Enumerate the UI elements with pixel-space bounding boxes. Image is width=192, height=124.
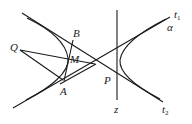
label-t1-sub: 1 — [177, 14, 181, 22]
label-t2-sub: 2 — [165, 109, 169, 117]
label-t2: t2 — [162, 104, 169, 117]
label-M: M — [70, 54, 79, 65]
label-alpha: α — [167, 22, 173, 33]
label-Q: Q — [10, 42, 18, 53]
label-z: z — [114, 104, 118, 115]
label-B: B — [73, 28, 80, 39]
label-A: A — [60, 86, 67, 97]
label-t1: t1 — [174, 9, 181, 22]
hyperbola-right-branch — [120, 19, 166, 99]
label-P: P — [104, 75, 111, 86]
